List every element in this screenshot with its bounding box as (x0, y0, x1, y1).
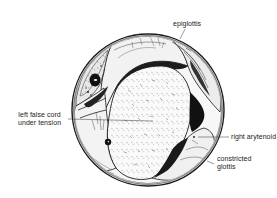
leader-epiglottis (180, 29, 185, 39)
label-left-false-cord: left false cord under tension (18, 111, 61, 127)
label-epiglottis: epiglottis (173, 20, 201, 28)
leader-constricted-glottis (207, 161, 214, 164)
label-right-arytenoid: right arytenoid (231, 133, 276, 141)
larynx-illustration: epiglottis left false cord under tension… (0, 0, 277, 198)
label-constricted-glottis: constricted glottis (217, 155, 251, 171)
